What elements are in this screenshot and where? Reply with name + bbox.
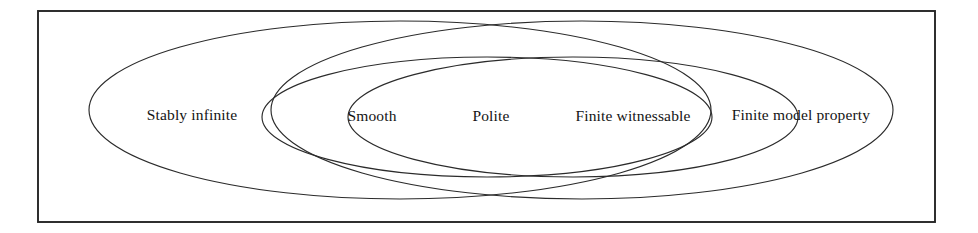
venn-diagram-figure: Stably infinite Smooth Polite Finite wit…: [0, 0, 978, 233]
region-label-stably-infinite: Stably infinite: [147, 106, 238, 123]
region-label-smooth: Smooth: [347, 107, 396, 124]
region-label-polite: Polite: [472, 107, 509, 124]
venn-diagram-canvas: Stably infinite Smooth Polite Finite wit…: [0, 0, 978, 233]
region-label-finite-witnessable: Finite witnessable: [575, 107, 690, 124]
ellipse-finite-witnessable: [348, 57, 798, 177]
region-label-finite-model-property: Finite model property: [732, 106, 870, 123]
